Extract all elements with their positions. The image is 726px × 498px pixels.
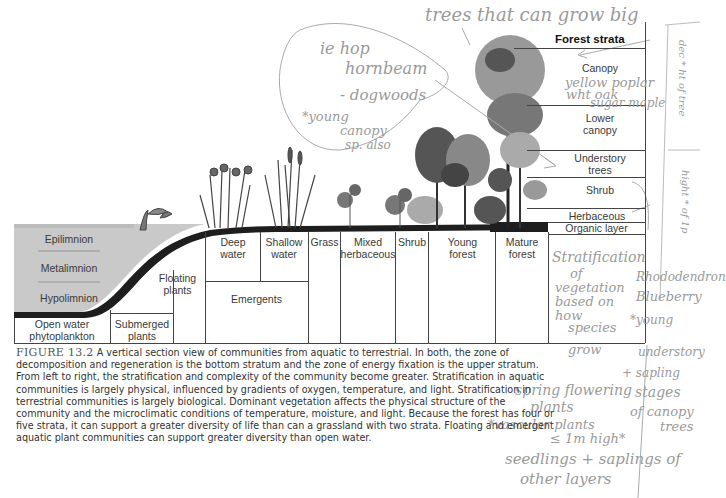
herbaceous-plants: [337, 184, 443, 228]
strata-line: [527, 208, 645, 209]
zone-deep-water: Deep water: [212, 236, 254, 260]
note-stratification: Stratification: [552, 250, 645, 264]
strata-line: [527, 150, 645, 151]
divider: [548, 232, 549, 343]
strata-shrub: Shrub: [565, 184, 635, 196]
note-herbaceous: other layers: [520, 472, 612, 486]
zone-mixed-herbaceous: Mixed herbaceous: [340, 236, 396, 260]
zone-mature-forest: Mature forest: [497, 236, 547, 260]
note-circle-line: canopy: [340, 124, 387, 138]
divider: [205, 232, 206, 343]
note-shrub: + sapling: [622, 366, 680, 380]
note-shrub: stages: [635, 385, 681, 399]
note-stratification: vegetation: [555, 281, 625, 295]
note-circle-line: ie hop: [320, 42, 370, 56]
divider: [205, 281, 308, 282]
lake-layer-epilimnion: Epilimnion: [24, 233, 114, 245]
note-trees-grow-big: trees that can grow big: [425, 8, 639, 22]
divider: [110, 313, 173, 314]
strata-organic-layer: Organic layer: [548, 222, 645, 234]
strata-canopy: Canopy: [560, 62, 640, 74]
note-shrub: Rhododendron: [636, 270, 726, 284]
zone-shallow-water: Shallow water: [262, 236, 306, 260]
lake-layer-metalimnion: Metalimnion: [24, 262, 114, 274]
figure-caption: FIGURE 13.2 A vertical section view of c…: [16, 347, 556, 445]
strata-line: [514, 48, 645, 49]
note-shrub: of canopy: [630, 405, 694, 419]
note-shrub: understory: [638, 345, 705, 359]
lake-layer-hypolimnion: Hypolimnion: [24, 292, 114, 304]
strata-herbaceous: Herbaceous: [552, 210, 642, 222]
note-stratification: grow: [568, 343, 602, 357]
figure-caption-text: A vertical section view of communities f…: [16, 347, 554, 443]
zone-young-forest: Young forest: [435, 236, 490, 260]
divider: [260, 232, 261, 282]
note-stratification: based on: [555, 295, 614, 309]
zones-bottom-border: [14, 343, 548, 344]
note-side-top: dec * ht of tree: [675, 40, 689, 116]
divider: [14, 318, 15, 343]
strata-understory: Understory trees: [565, 152, 635, 176]
divider: [308, 232, 309, 343]
note-side-mid: hight * of 1p: [678, 170, 692, 234]
note-herbaceous: ≤ 1m high*: [550, 432, 625, 446]
emergent-plants: [140, 147, 315, 230]
divider: [495, 232, 496, 343]
zone-grass: Grass: [309, 236, 340, 248]
zone-emergents: Emergents: [205, 293, 308, 305]
note-circle-line: *young: [302, 110, 349, 124]
note-circle-line: sp. also: [345, 138, 391, 152]
zone-open-water: Open water phytoplankton: [22, 318, 102, 342]
note-stratification: of: [570, 267, 583, 281]
note-stratification: species: [568, 321, 617, 335]
strata-line: [527, 177, 645, 178]
strata-line: [548, 234, 645, 235]
divider: [428, 232, 429, 343]
note-circle-line: hornbeam: [345, 62, 427, 76]
note-shrub: *young: [630, 313, 673, 327]
zone-floating: Floating plants: [150, 272, 205, 296]
note-canopy: sugar maple: [590, 96, 665, 110]
note-shrub: Blueberry: [636, 290, 702, 304]
figure-number: FIGURE 13.2: [16, 346, 94, 359]
zone-submerged: Submerged plants: [111, 318, 173, 342]
note-shrub: trees: [660, 420, 694, 434]
strata-lower-canopy: Lower canopy: [570, 112, 630, 136]
forest-strata-title: Forest strata: [555, 33, 625, 45]
note-herbaceous: seedlings + saplings of: [505, 452, 681, 466]
zone-shrub: Shrub: [396, 236, 428, 248]
note-circle-line: - dogwoods: [340, 88, 426, 102]
